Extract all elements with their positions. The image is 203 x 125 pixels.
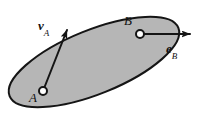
vector-label-va: vA (38, 19, 49, 36)
point-label-a: A (29, 91, 37, 104)
ellipse-body-shape (0, 0, 190, 125)
point-marker-b (136, 30, 144, 38)
figure-canvas: vA eB A B (0, 0, 203, 125)
vector-label-eb-base: e (166, 41, 172, 56)
point-marker-a (39, 87, 47, 95)
point-label-b: B (124, 14, 132, 27)
ellipse-body (0, 0, 190, 125)
vector-label-va-base: v (38, 18, 44, 33)
diagram-svg (0, 0, 203, 125)
vector-label-va-subscript: A (44, 28, 50, 38)
vector-label-eb-subscript: B (172, 51, 178, 61)
vector-label-eb: eB (166, 42, 177, 59)
